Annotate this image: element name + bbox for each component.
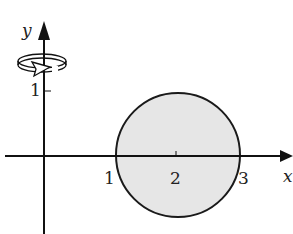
y-axis-arrow-icon	[38, 21, 50, 40]
y-axis	[38, 21, 51, 234]
x-tick-label-2: 2	[170, 170, 181, 187]
x-axis-arrow-icon	[280, 150, 293, 162]
x-tick-label-1: 1	[104, 170, 115, 187]
x-axis-label: x	[283, 168, 293, 185]
diagram-canvas: y x 1 1 2 3	[0, 0, 293, 234]
rotation-arrow-icon	[18, 54, 66, 76]
x-tick-label-3: 3	[238, 170, 249, 187]
y-axis-label: y	[22, 22, 32, 39]
y-tick-label-1: 1	[30, 82, 41, 99]
